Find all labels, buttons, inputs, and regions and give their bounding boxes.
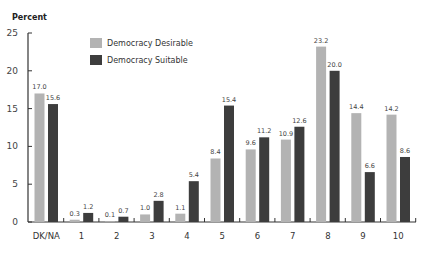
bar [281,140,291,222]
legend-label: Democracy Desirable [107,39,193,48]
bar-value-label: 9.6 [246,139,256,147]
bar-value-label: 15.6 [46,94,60,102]
bar [211,158,221,222]
x-tick-label: 4 [184,231,189,241]
bar-value-label: 1.0 [140,204,150,212]
bar [105,221,115,222]
bar [154,201,164,222]
bar [70,220,80,222]
bar-value-label: 14.2 [384,105,398,113]
y-axis: 0510152025 [7,28,32,227]
x-tick-label: 3 [149,231,154,241]
bar [400,157,410,222]
bar-value-label: 12.6 [292,117,306,125]
y-axis-title: Percent [12,13,47,22]
bar-value-label: 8.4 [210,148,220,156]
x-tick-label: 6 [255,231,260,241]
legend: Democracy DesirableDemocracy Suitable [90,38,193,65]
bar [316,47,326,222]
y-tick-label: 15 [7,104,18,114]
bar-value-label: 10.9 [279,130,293,138]
bar-series: 17.00.30.11.01.18.49.610.923.214.414.215… [32,37,410,222]
bar-value-label: 6.6 [365,162,375,170]
bar-value-label: 11.2 [257,127,271,135]
bar [294,127,304,222]
bar-value-label: 15.4 [222,96,236,104]
bar-value-label: 23.2 [314,37,328,45]
y-tick-label: 25 [7,28,18,38]
legend-swatch [90,55,102,65]
bar [189,181,199,222]
bar [330,71,340,222]
bar [175,214,185,222]
bar [259,137,269,222]
y-tick-label: 20 [7,66,19,76]
bar [35,93,45,222]
x-tick-label: 8 [325,231,330,241]
bar [246,149,256,222]
x-tick-label: 5 [220,231,225,241]
legend-label: Democracy Suitable [107,56,188,65]
bar [351,113,361,222]
x-tick-label: DK/NA [33,231,60,241]
y-tick-label: 5 [12,179,18,189]
bar-value-label: 8.6 [400,147,410,155]
x-tick-label: 10 [393,231,404,241]
y-tick-label: 0 [12,217,18,227]
bar [365,172,375,222]
y-tick-label: 10 [7,141,19,151]
bar-value-label: 0.7 [118,207,128,215]
bar [48,104,58,222]
bar-value-label: 0.3 [70,210,80,218]
bar-chart: Percent 0510152025 DK/NA12345678910 17.0… [0,0,430,260]
x-tick-label: 2 [114,231,119,241]
bar [83,213,93,222]
x-tick-label: 1 [79,231,84,241]
x-tick-label: 9 [360,231,365,241]
bar-value-label: 2.8 [153,191,163,199]
bar [140,214,150,222]
bar [224,106,234,222]
bar-value-label: 1.1 [175,204,185,212]
x-tick-label: 7 [290,231,295,241]
legend-swatch [90,38,102,48]
bar-value-label: 17.0 [32,83,46,91]
bar-value-label: 1.2 [83,203,93,211]
bar-value-label: 14.4 [349,103,363,111]
bar-value-label: 0.1 [105,211,115,219]
bar [118,217,128,222]
bar-value-label: 20.0 [327,61,341,69]
bar [387,115,397,222]
bar-value-label: 5.4 [189,171,199,179]
